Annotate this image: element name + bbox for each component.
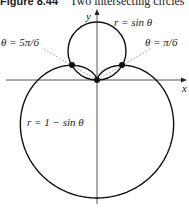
label-r-sin: r = sin θ	[114, 16, 152, 28]
polar-plot	[0, 0, 189, 208]
label-theta-5pi-6: θ = 5π/6	[1, 36, 39, 48]
label-r-one-minus-sin: r = 1 − sin θ	[27, 116, 84, 128]
x-axis-label: x	[182, 82, 187, 94]
intersection-point-5pi-6	[69, 62, 75, 68]
intersection-point-pi-6	[119, 62, 125, 68]
intersection-point-origin	[94, 77, 100, 83]
label-theta-pi-6: θ = π/6	[145, 36, 177, 48]
y-axis-label: y	[86, 10, 91, 22]
y-axis-arrow-icon	[95, 9, 100, 15]
